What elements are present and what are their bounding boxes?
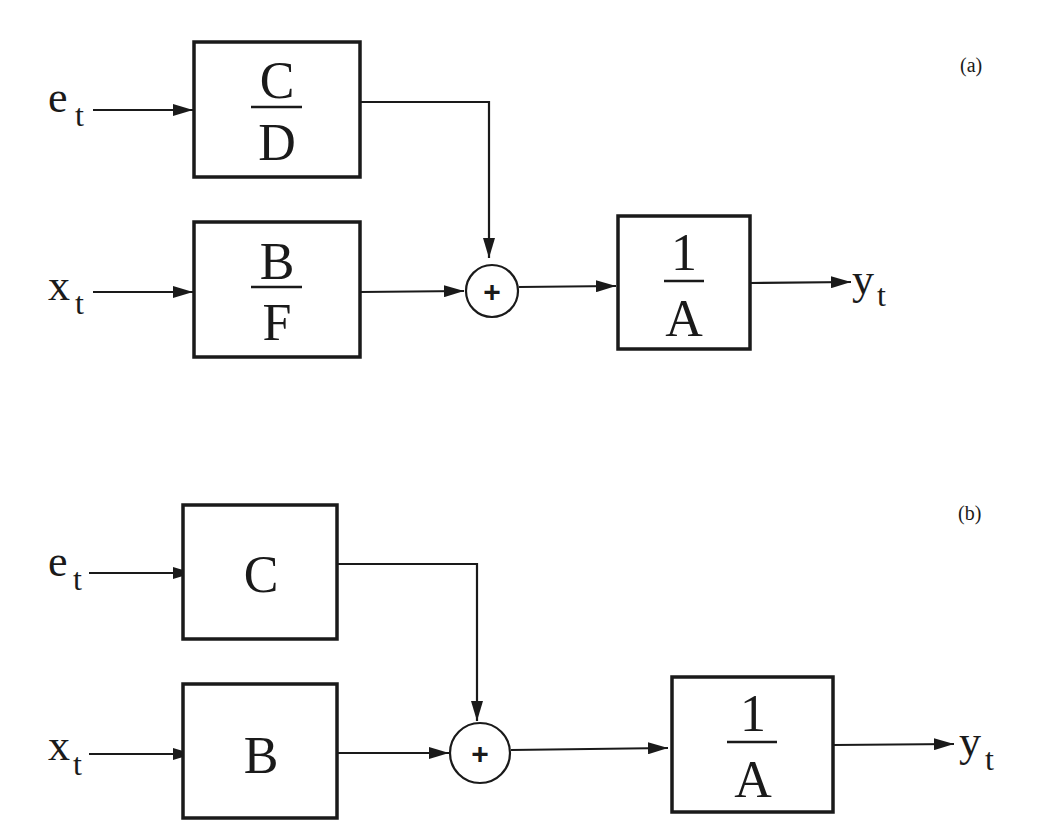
output-y-t: y t	[852, 255, 886, 313]
input-subscript: t	[75, 97, 84, 133]
block-denominator: D	[258, 114, 296, 171]
block-denominator: A	[734, 751, 772, 808]
output-y-t: y t	[959, 717, 994, 777]
input-subscript: t	[73, 746, 82, 782]
input-x-t: x t	[48, 261, 84, 321]
input-subscript: t	[75, 285, 84, 321]
arrow-to-output	[750, 282, 851, 283]
output-symbol: y	[852, 255, 874, 304]
plus-icon: +	[483, 275, 501, 308]
block-label: B	[244, 727, 279, 784]
panel-b: (b) e t x t C B +	[48, 502, 994, 818]
arrow-sum-to-1a	[511, 748, 668, 750]
block-numerator: C	[260, 52, 295, 109]
arrow-to-output	[834, 744, 954, 745]
panel-a: (a) e t x t C D B F	[48, 42, 982, 357]
block-numerator: 1	[740, 685, 766, 742]
block-c: C	[183, 505, 337, 639]
input-symbol: x	[48, 721, 70, 770]
input-symbol: e	[48, 73, 68, 122]
block-denominator: F	[263, 294, 292, 351]
input-subscript: t	[73, 561, 82, 597]
block-c-over-d: C D	[194, 42, 360, 177]
input-symbol: x	[48, 261, 70, 310]
block-1-over-a: 1 A	[672, 677, 833, 812]
input-e-t: e t	[48, 73, 84, 133]
panel-label-b: (b)	[958, 502, 981, 525]
arrow-cd-to-sum	[360, 102, 489, 258]
summing-junction: +	[466, 265, 518, 317]
panel-label-a: (a)	[960, 54, 982, 77]
block-b-over-f: B F	[194, 222, 360, 357]
input-e-t: e t	[48, 537, 82, 597]
output-subscript: t	[985, 741, 994, 777]
input-symbol: e	[48, 537, 68, 586]
input-x-t: x t	[48, 721, 82, 782]
output-symbol: y	[959, 717, 981, 766]
block-b: B	[183, 684, 337, 818]
block-diagram: (a) e t x t C D B F	[0, 0, 1050, 828]
block-label: C	[244, 546, 279, 603]
block-numerator: 1	[671, 224, 697, 281]
summing-junction: +	[450, 723, 510, 783]
arrow-c-to-sum	[337, 564, 477, 721]
plus-icon: +	[471, 737, 489, 770]
arrow-bf-to-sum	[360, 291, 464, 292]
block-denominator: A	[665, 290, 703, 347]
block-1-over-a: 1 A	[618, 216, 750, 349]
output-subscript: t	[877, 277, 886, 313]
arrow-sum-to-1a	[519, 286, 616, 287]
block-numerator: B	[260, 233, 295, 290]
